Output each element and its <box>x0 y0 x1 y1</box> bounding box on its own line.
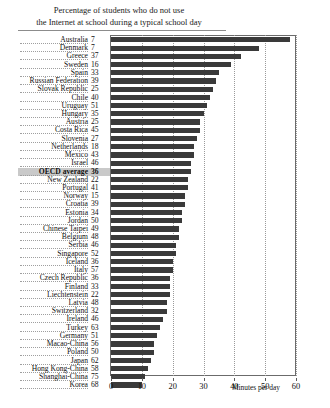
table-row: Serbia46 <box>0 241 330 249</box>
bar <box>111 103 207 108</box>
bar <box>111 366 148 371</box>
table-row: Ireland46 <box>0 315 330 323</box>
bar <box>111 300 167 305</box>
table-row: Australia7 <box>0 36 330 44</box>
bar <box>111 309 167 314</box>
table-row: Uruguay51 <box>0 102 330 110</box>
bar <box>111 136 197 141</box>
chart-page: Percentage of students who do not use th… <box>0 0 330 408</box>
tick-label-10: 10 <box>138 381 146 392</box>
table-row: Mexico43 <box>0 151 330 159</box>
bar <box>111 185 188 190</box>
table-row: Hungary35 <box>0 110 330 118</box>
tick-label-20: 20 <box>168 381 176 392</box>
bar <box>111 46 259 51</box>
bar <box>111 144 194 149</box>
table-row: Macao-China56 <box>0 340 330 348</box>
x-axis-title: Minutes per day <box>232 382 280 393</box>
bar <box>111 37 290 42</box>
bar <box>111 62 231 67</box>
table-row: Austria25 <box>0 118 330 126</box>
bar <box>111 292 170 297</box>
chart-title-line-1: Percentage of students who do not use <box>0 5 238 17</box>
table-row: Singapore52 <box>0 250 330 258</box>
bar <box>111 267 173 272</box>
chart-title-line-2: the Internet at school during a typical … <box>0 17 238 29</box>
table-row: Chinese Taipei49 <box>0 225 330 233</box>
bar <box>111 218 182 223</box>
bar <box>111 259 173 264</box>
bar <box>111 325 160 330</box>
bar <box>111 119 200 124</box>
tick-label-60: 60 <box>292 381 300 392</box>
table-row: Portugal41 <box>0 184 330 192</box>
table-row: Belgium48 <box>0 233 330 241</box>
table-row: Czech Republic36 <box>0 274 330 282</box>
bar <box>111 54 241 59</box>
table-row: Sweden16 <box>0 61 330 69</box>
bar <box>111 177 188 182</box>
table-row: New Zealand22 <box>0 176 330 184</box>
bar <box>111 202 185 207</box>
bar <box>111 193 185 198</box>
bar <box>111 78 216 83</box>
table-row: Latvia48 <box>0 299 330 307</box>
table-row: Netherlands18 <box>0 143 330 151</box>
x-axis: 0102030405060 Minutes per day <box>0 378 330 408</box>
table-row: Croatia39 <box>0 200 330 208</box>
table-row: Greece37 <box>0 52 330 60</box>
table-row: Iceland36 <box>0 258 330 266</box>
table-row: Switzerland32 <box>0 307 330 315</box>
bar <box>111 161 191 166</box>
bar-chart: Australia7Denmark7Greece37Sweden16Spain3… <box>0 33 330 378</box>
title-divider <box>18 30 226 31</box>
bar <box>111 235 179 240</box>
bar <box>111 276 170 281</box>
bar <box>111 333 157 338</box>
table-row: Slovak Republic25 <box>0 85 330 93</box>
bar <box>111 317 163 322</box>
bar <box>111 87 213 92</box>
bar <box>111 341 154 346</box>
bar <box>111 70 219 75</box>
table-row: Chile40 <box>0 94 330 102</box>
bar <box>111 284 170 289</box>
bar <box>111 358 151 363</box>
bar <box>111 95 210 100</box>
tick-label-30: 30 <box>199 381 207 392</box>
table-row: Turkey63 <box>0 324 330 332</box>
table-row: Poland50 <box>0 348 330 356</box>
bar <box>111 169 191 174</box>
table-row: Slovenia27 <box>0 135 330 143</box>
bar <box>111 111 204 116</box>
chart-title: Percentage of students who do not use th… <box>0 5 238 28</box>
bar-rows: Australia7Denmark7Greece37Sweden16Spain3… <box>0 36 330 389</box>
bar <box>111 350 154 355</box>
bar <box>111 251 176 256</box>
table-row: Liechtenstein22 <box>0 291 330 299</box>
bar <box>111 243 176 248</box>
table-row: Denmark7 <box>0 44 330 52</box>
table-row: Norway15 <box>0 192 330 200</box>
bar <box>111 210 182 215</box>
table-row: Estonia34 <box>0 209 330 217</box>
bar <box>111 128 200 133</box>
tick-label-0: 0 <box>109 381 113 392</box>
bar <box>111 226 179 231</box>
bar <box>111 152 194 157</box>
table-row: Costa Rica45 <box>0 126 330 134</box>
